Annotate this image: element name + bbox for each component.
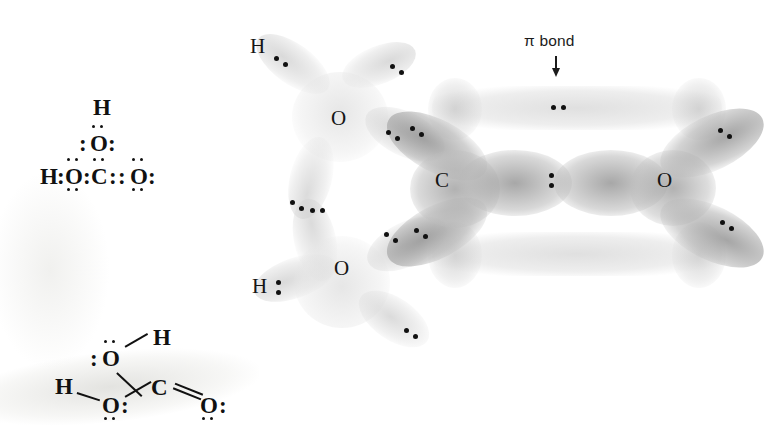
bond-o-upper-h [125,333,148,347]
lewis-doublecolon-c-o-b: : [118,165,126,188]
lewis2-atom-h-left: H [55,375,73,398]
lewis-colon-o-top-left: : [79,132,87,155]
lone-pair-o-lower-below [103,415,120,422]
lone-pair-o-left-below [66,186,83,193]
lewis-colon-h-o: : [57,165,65,188]
lewis-atom-h-top: H [93,96,111,119]
lewis-atom-o-top: O [90,132,108,155]
orbital-label-h-upper: H [250,36,265,57]
lewis-doublecolon-c-o-a: : [109,165,117,188]
lewis-atom-c: C [91,165,108,188]
lewis-atom-o-left: O [65,165,83,188]
lewis2-atom-c: C [151,376,168,399]
lewis-colon-o-top-right: : [108,132,116,155]
lewis-atom-h-left: H [40,165,58,188]
lewis2-colon-o-upper-left: : [90,347,98,370]
lewis-colon-o-right: : [148,165,156,188]
orbital-label-c-central: C [435,170,449,191]
lewis-atom-o-right: O [130,165,148,188]
lewis2-atom-o-lower: O [102,394,120,417]
bond-h-o-lower [77,392,100,401]
double-bond-c-o [173,383,203,401]
lewis2-atom-o-upper: O [102,347,120,370]
orbital-label-o-carbonyl: O [657,170,672,191]
lewis-colon-o-c: : [83,165,91,188]
pi-bond-label: π bond [524,32,575,50]
lewis2-colon-o-carbonyl: : [219,394,227,417]
orbital-overlap-model: H O C O H O π bond [232,8,754,388]
lone-pair-c-above [92,156,109,163]
orbital-label-o-hydroxyl-lower: O [334,258,349,279]
lone-pair-o-right-below [131,186,148,193]
lone-pair-o-carbonyl-below [201,415,218,422]
lone-pair-o-left-above [66,156,83,163]
orbital-label-o-hydroxyl-upper: O [331,108,346,129]
lewis2-atom-o-carbonyl: O [200,394,218,417]
lone-pair-o-right-above [131,156,148,163]
pi-bond-arrow-icon [550,56,562,78]
lone-pair-o-top-above [91,123,108,130]
lewis2-atom-h-upper: H [153,326,171,349]
orbital-label-h-lower: H [252,276,267,297]
lone-pair-o-upper-above [103,338,120,345]
lewis-structure-dot: H : O : H : O : C : : O : [40,96,240,196]
